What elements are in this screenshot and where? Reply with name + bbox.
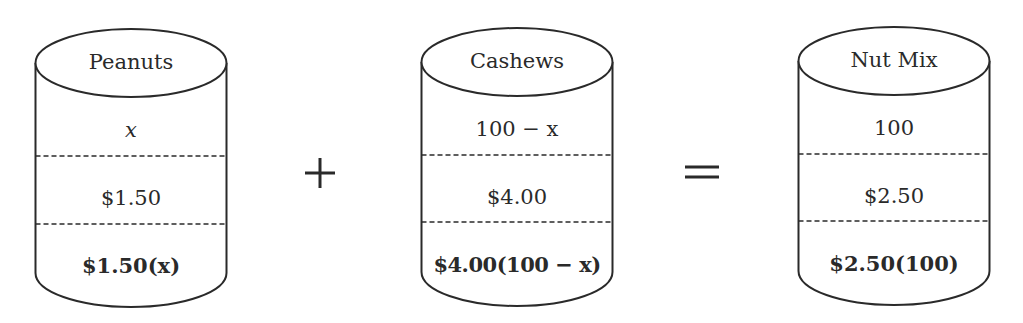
cylinder-title: Nut Mix (797, 47, 991, 73)
total-value: $4.00(100 − x) (420, 252, 614, 278)
quantity-value: 100 (797, 115, 991, 141)
total-value: $1.50(x) (34, 253, 228, 279)
price-value: $1.50 (34, 185, 228, 211)
equals-icon (684, 162, 720, 182)
plus-icon (303, 156, 337, 190)
cylinder-cashews: Cashews 100 − x $4.00 $4.00(100 − x) (420, 26, 614, 310)
total-value: $2.50(100) (797, 251, 991, 277)
cylinder-nut-mix: Nut Mix 100 $2.50 $2.50(100) (797, 25, 991, 309)
price-value: $2.50 (797, 183, 991, 209)
quantity-value: x (34, 117, 228, 143)
cylinder-title: Cashews (420, 48, 614, 74)
cylinder-title: Peanuts (34, 49, 228, 75)
price-value: $4.00 (420, 184, 614, 210)
quantity-value: 100 − x (420, 116, 614, 142)
cylinder-peanuts: Peanuts x $1.50 $1.50(x) (34, 27, 228, 311)
